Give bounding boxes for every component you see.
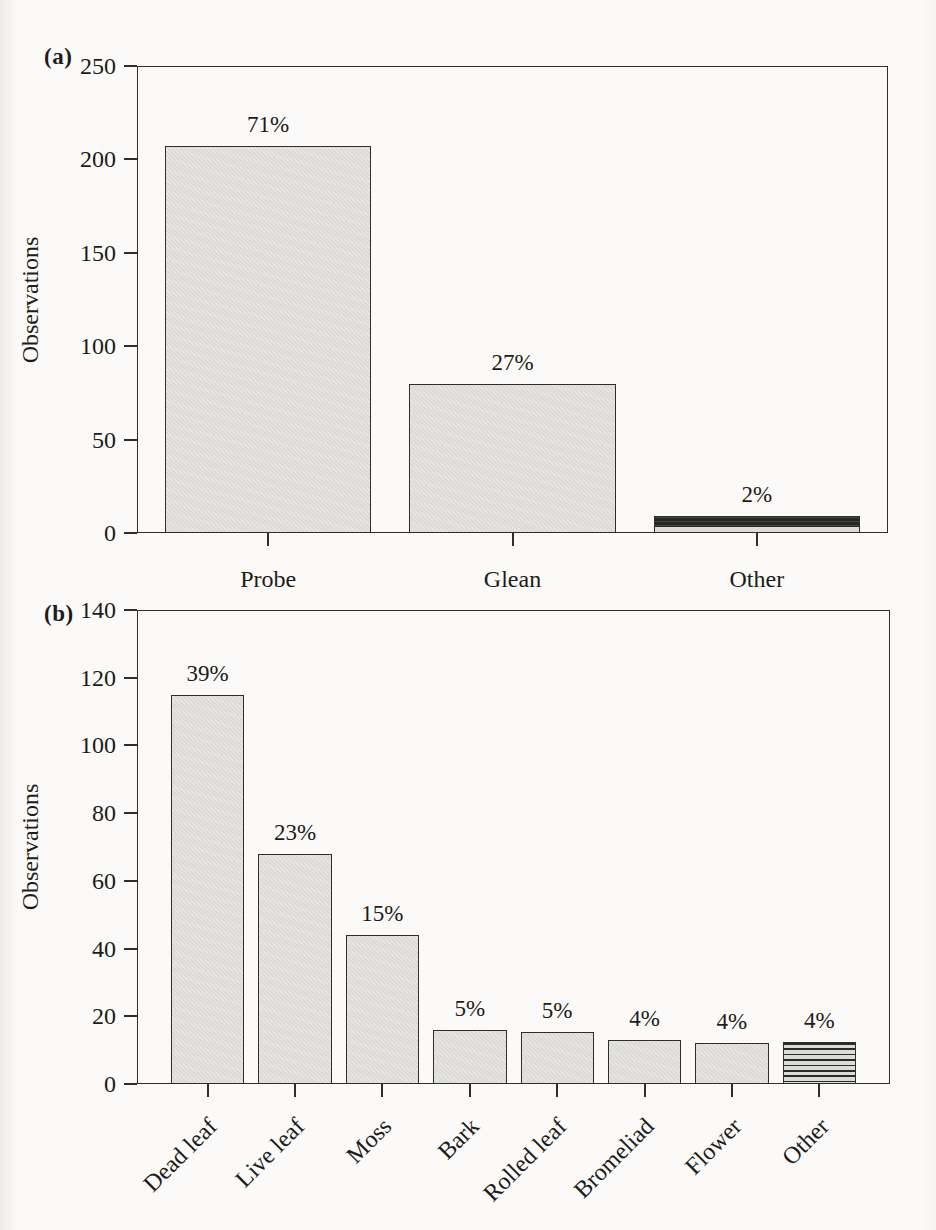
bar-value-label: 2% [634, 482, 880, 508]
bar [171, 695, 244, 1084]
y-tick-label: 250 [30, 52, 116, 80]
bar-value-label: 39% [151, 661, 264, 687]
x-category-label: Bark [433, 1113, 484, 1164]
y-axis-tick [124, 677, 137, 679]
bar-value-label: 71% [145, 112, 391, 138]
x-axis-tick [469, 1084, 471, 1097]
y-axis-tick [124, 812, 137, 814]
bar [654, 516, 860, 533]
bar [346, 935, 419, 1084]
y-axis-tick [124, 65, 137, 67]
figure-canvas: (a)Observations05010015020025071%Probe27… [0, 0, 936, 1230]
y-tick-label: 100 [30, 332, 116, 360]
x-axis-tick [381, 1084, 383, 1097]
bar-value-label: 15% [326, 901, 439, 927]
x-category-label: Flower [680, 1113, 746, 1179]
bar [783, 1042, 856, 1084]
x-category-label: Moss [342, 1113, 397, 1168]
y-axis-tick [124, 252, 137, 254]
y-tick-label: 50 [30, 426, 116, 454]
bar [433, 1030, 506, 1084]
y-axis-tick [124, 439, 137, 441]
x-axis-tick [556, 1084, 558, 1097]
y-tick-label: 60 [30, 867, 116, 895]
y-tick-label: 20 [30, 1002, 116, 1030]
y-axis-tick [124, 880, 137, 882]
y-axis-tick [124, 1083, 137, 1085]
bar-value-label: 27% [389, 350, 635, 376]
bar [521, 1032, 594, 1084]
x-category-label: Bromeliad [569, 1113, 659, 1203]
bar [258, 854, 331, 1084]
y-tick-label: 80 [30, 799, 116, 827]
bar-value-label: 4% [763, 1008, 876, 1034]
bar [409, 384, 615, 533]
y-axis-tick [124, 532, 137, 534]
y-tick-label: 150 [30, 239, 116, 267]
bar-value-label: 23% [238, 820, 351, 846]
y-axis-tick [124, 744, 137, 746]
y-axis-tick [124, 609, 137, 611]
x-axis-tick [207, 1084, 209, 1097]
y-axis-tick [124, 158, 137, 160]
x-category-label: Dead leaf [138, 1113, 222, 1197]
x-axis-tick [644, 1084, 646, 1097]
bar [695, 1043, 768, 1084]
y-axis-tick [124, 345, 137, 347]
y-tick-label: 100 [30, 731, 116, 759]
x-axis-tick [294, 1084, 296, 1097]
x-axis-tick [731, 1084, 733, 1097]
y-tick-label: 120 [30, 664, 116, 692]
x-category-label: Other [614, 566, 900, 592]
y-axis-tick [124, 1015, 137, 1017]
x-category-label: Live leaf [230, 1113, 309, 1192]
y-axis-tick [124, 948, 137, 950]
y-tick-label: 0 [30, 519, 116, 547]
x-axis-tick [512, 533, 514, 546]
x-axis-tick [267, 533, 269, 546]
x-category-label: Rolled leaf [478, 1113, 571, 1206]
y-tick-label: 200 [30, 145, 116, 173]
x-axis-tick [818, 1084, 820, 1097]
bar [608, 1040, 681, 1084]
x-category-label: Other [777, 1113, 834, 1170]
y-tick-label: 140 [30, 596, 116, 624]
y-tick-label: 0 [30, 1070, 116, 1098]
bar [165, 146, 371, 533]
x-axis-tick [756, 533, 758, 546]
y-tick-label: 40 [30, 935, 116, 963]
